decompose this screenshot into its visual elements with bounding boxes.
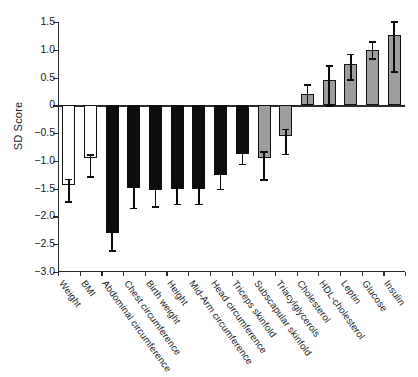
x-axis-label: BMI (79, 278, 98, 299)
error-bar-stem (133, 180, 135, 207)
error-bar-cap-upper (260, 151, 267, 153)
error-bar-stem (68, 179, 70, 202)
error-bar-stem (328, 65, 330, 106)
y-tick-label: −2.0 (34, 209, 55, 221)
x-tick-mark (123, 272, 124, 276)
error-bar-stem (372, 41, 374, 58)
error-bar-cap-lower (130, 208, 137, 210)
error-bar-cap-lower (65, 201, 72, 203)
x-tick-mark (275, 272, 276, 276)
error-bar-stem (393, 21, 395, 71)
error-bar-stem (155, 181, 157, 205)
error-bar-cap-lower (282, 154, 289, 156)
bar (149, 105, 162, 189)
x-tick-mark (101, 272, 102, 276)
error-bar-stem (176, 181, 178, 203)
x-axis-label: Height (165, 278, 191, 307)
error-bar-cap-upper (65, 179, 72, 181)
x-axis-label: Insulin (382, 278, 408, 307)
error-bar-cap-lower (87, 176, 94, 178)
error-bar-cap-upper (347, 54, 354, 56)
error-bar-cap-lower (260, 179, 267, 181)
x-tick-mark (232, 272, 233, 276)
x-tick-mark (340, 272, 341, 276)
x-axis-label: HDL-cholesterol (317, 278, 367, 341)
error-bar-cap-upper (282, 129, 289, 131)
error-bar-stem (285, 129, 287, 154)
error-bar-cap-upper (326, 65, 333, 67)
error-bar-cap-upper (87, 154, 94, 156)
error-bar-cap-upper (109, 226, 116, 228)
error-bar-cap-lower (239, 164, 246, 166)
error-bar-stem (90, 154, 92, 176)
bar (106, 105, 119, 233)
error-bar-cap-lower (304, 104, 311, 106)
x-tick-mark (145, 272, 146, 276)
x-tick-mark (383, 272, 384, 276)
error-bar-cap-lower (152, 206, 159, 208)
y-tick-label: 1.5 (40, 15, 55, 27)
x-axis-label: Glucose (361, 278, 391, 314)
x-axis-label: Triceps skinfold (230, 278, 279, 339)
error-bar-cap-upper (239, 146, 246, 148)
y-tick-label: −1.5 (34, 182, 55, 194)
error-bar-cap-lower (174, 204, 181, 206)
y-tick-label: 1.0 (40, 43, 55, 55)
x-tick-mark (318, 272, 319, 276)
plot-area: 1.51.00.50−0.5−1.0−1.5−2.0−2.5−3.0 (58, 22, 405, 272)
error-bar-cap-lower (391, 71, 398, 73)
y-axis-title: SD Score (12, 86, 24, 166)
x-axis-label: Birth weight (144, 278, 183, 326)
error-bar-cap-upper (195, 181, 202, 183)
x-tick-mark (188, 272, 189, 276)
error-bar-cap-upper (152, 181, 159, 183)
y-tick-label: 0.5 (40, 71, 55, 83)
error-bar-cap-upper (304, 84, 311, 86)
error-bar-stem (263, 151, 265, 179)
bar (84, 105, 97, 158)
x-axis-label: Triacylglycerols (274, 278, 322, 339)
error-bar-cap-lower (217, 189, 224, 191)
error-bar-cap-lower (109, 250, 116, 252)
y-tick-label: −3.0 (34, 265, 55, 277)
x-tick-mark (297, 272, 298, 276)
x-tick-mark (80, 272, 81, 276)
error-bar-stem (198, 181, 200, 203)
x-axis-label: Abdominal circumference (100, 278, 174, 374)
x-tick-mark (166, 272, 167, 276)
x-axis-label: Weight (57, 278, 84, 309)
y-tick-label: −1.0 (34, 154, 55, 166)
x-axis-label: Subscapular skinfold (252, 278, 314, 358)
bar (192, 105, 205, 188)
error-bar-cap-upper (217, 170, 224, 172)
x-tick-mark (362, 272, 363, 276)
y-tick-label: −2.5 (34, 237, 55, 249)
bar (127, 105, 140, 187)
x-axis-label: Leptin (339, 278, 364, 306)
error-bar-cap-upper (130, 180, 137, 182)
error-bar-cap-lower (369, 58, 376, 60)
error-bar-cap-upper (174, 181, 181, 183)
x-tick-mark (253, 272, 254, 276)
y-tick-label: 0 (49, 98, 55, 110)
x-tick-mark (210, 272, 211, 276)
y-axis-line (58, 22, 59, 272)
y-tick-label: −0.5 (34, 126, 55, 138)
error-bar-stem (220, 170, 222, 189)
x-axis-label: Mid-Arm circumference (187, 278, 255, 366)
x-axis-label: Cholesterol (296, 278, 334, 325)
x-axis-label: Head circumference (209, 278, 269, 355)
sd-score-bar-chart: SD Score 1.51.00.50−0.5−1.0−1.5−2.0−2.5−… (0, 0, 418, 377)
x-tick-mark (58, 272, 59, 276)
error-bar-stem (307, 84, 309, 103)
error-bar-cap-upper (369, 41, 376, 43)
error-bar-cap-lower (326, 105, 333, 107)
error-bar-cap-lower (195, 204, 202, 206)
error-bar-stem (111, 226, 113, 249)
error-bar-stem (350, 54, 352, 80)
bar (214, 105, 227, 174)
x-tick-mark (405, 272, 406, 276)
error-bar-cap-upper (391, 21, 398, 23)
x-axis-label: Chest circumference (122, 278, 184, 357)
error-bar-cap-lower (347, 79, 354, 81)
